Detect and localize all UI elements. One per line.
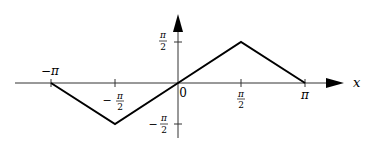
y-axis-arrow-icon [173, 14, 183, 32]
xtick-label-neg-half-pi-minus: − [102, 94, 111, 107]
chart: −π − π 2 0 π 2 π x π 2 − π 2 [0, 0, 366, 144]
xtick-label-half-pi-num: π [237, 89, 245, 99]
xtick-label-neg-half-pi-num: π [116, 91, 124, 101]
xtick-label-pi: π [300, 88, 310, 102]
plot-svg: −π − π 2 0 π 2 π x π 2 − π 2 [0, 0, 366, 144]
ytick-label-neg-half-pi-minus: − [148, 118, 157, 131]
ytick-label-half-pi-den: 2 [160, 42, 166, 52]
xtick-label-half-pi-den: 2 [238, 100, 244, 110]
ytick-label-neg-half-pi-den: 2 [161, 125, 167, 135]
xtick-label-neg-half-pi-den: 2 [117, 102, 123, 112]
ytick-label-neg-half-pi-num: π [160, 113, 168, 123]
xtick-label-neg-pi: −π [41, 64, 60, 78]
x-axis-label: x [353, 75, 361, 90]
ytick-label-half-pi-num: π [159, 30, 167, 40]
origin-label: 0 [179, 86, 187, 100]
x-axis-arrow-icon [326, 78, 344, 88]
